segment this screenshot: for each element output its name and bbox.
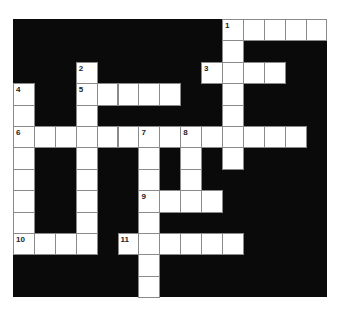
letter-input[interactable] [307,20,327,40]
letter-input[interactable] [181,234,201,254]
crossword-cell[interactable] [138,276,160,298]
crossword-cell[interactable] [138,212,160,234]
crossword-cell[interactable]: 4 [13,83,35,105]
letter-input[interactable] [14,170,34,190]
crossword-cell[interactable] [222,233,244,255]
letter-input[interactable] [119,234,139,254]
letter-input[interactable] [139,255,159,275]
crossword-cell[interactable] [138,147,160,169]
letter-input[interactable] [77,213,97,233]
letter-input[interactable] [160,127,180,147]
letter-input[interactable] [77,127,97,147]
letter-input[interactable] [14,213,34,233]
crossword-cell[interactable] [180,190,202,212]
crossword-cell[interactable] [76,212,98,234]
letter-input[interactable] [223,106,243,126]
letter-input[interactable] [160,191,180,211]
letter-input[interactable] [286,20,306,40]
letter-input[interactable] [77,148,97,168]
letter-input[interactable] [14,127,34,147]
letter-input[interactable] [160,234,180,254]
crossword-cell[interactable]: 2 [76,62,98,84]
crossword-cell[interactable] [76,169,98,191]
crossword-cell[interactable] [97,126,119,148]
crossword-cell[interactable] [34,126,56,148]
crossword-cell[interactable] [243,126,265,148]
crossword-cell[interactable] [159,126,181,148]
crossword-cell[interactable] [138,169,160,191]
crossword-cell[interactable]: 3 [201,62,223,84]
crossword-cell[interactable]: 9 [138,190,160,212]
crossword-cell[interactable] [222,147,244,169]
crossword-cell[interactable]: 8 [180,126,202,148]
letter-input[interactable] [202,234,222,254]
crossword-cell[interactable] [55,233,77,255]
crossword-cell[interactable] [180,233,202,255]
crossword-cell[interactable] [55,126,77,148]
crossword-cell[interactable] [13,169,35,191]
crossword-cell[interactable]: 1 [222,19,244,41]
crossword-cell[interactable] [285,126,307,148]
letter-input[interactable] [202,63,222,83]
crossword-cell[interactable] [118,83,140,105]
crossword-cell[interactable]: 10 [13,233,35,255]
crossword-cell[interactable] [76,105,98,127]
letter-input[interactable] [77,234,97,254]
letter-input[interactable] [160,84,180,104]
letter-input[interactable] [139,191,159,211]
letter-input[interactable] [223,148,243,168]
letter-input[interactable] [139,170,159,190]
letter-input[interactable] [202,127,222,147]
crossword-cell[interactable] [97,83,119,105]
crossword-cell[interactable] [159,190,181,212]
crossword-cell[interactable] [243,62,265,84]
letter-input[interactable] [119,84,139,104]
crossword-cell[interactable] [76,126,98,148]
letter-input[interactable] [181,148,201,168]
letter-input[interactable] [265,20,285,40]
letter-input[interactable] [139,277,159,297]
crossword-cell[interactable] [13,190,35,212]
crossword-cell[interactable] [222,126,244,148]
crossword-cell[interactable] [222,83,244,105]
crossword-cell[interactable] [138,83,160,105]
crossword-cell[interactable] [222,40,244,62]
letter-input[interactable] [244,63,264,83]
crossword-cell[interactable] [306,19,328,41]
crossword-cell[interactable] [201,233,223,255]
letter-input[interactable] [223,84,243,104]
crossword-cell[interactable] [76,233,98,255]
crossword-cell[interactable] [264,19,286,41]
crossword-cell[interactable] [264,62,286,84]
crossword-cell[interactable] [222,105,244,127]
crossword-cell[interactable] [201,190,223,212]
letter-input[interactable] [223,234,243,254]
letter-input[interactable] [14,191,34,211]
crossword-cell[interactable] [180,169,202,191]
letter-input[interactable] [181,191,201,211]
letter-input[interactable] [139,213,159,233]
crossword-cell[interactable] [285,19,307,41]
letter-input[interactable] [265,63,285,83]
crossword-cell[interactable] [159,83,181,105]
crossword-cell[interactable]: 6 [13,126,35,148]
crossword-cell[interactable] [243,19,265,41]
letter-input[interactable] [223,41,243,61]
letter-input[interactable] [223,20,243,40]
letter-input[interactable] [35,234,55,254]
letter-input[interactable] [244,127,264,147]
crossword-cell[interactable]: 11 [118,233,140,255]
letter-input[interactable] [244,20,264,40]
letter-input[interactable] [35,127,55,147]
crossword-cell[interactable] [76,147,98,169]
letter-input[interactable] [98,84,118,104]
letter-input[interactable] [77,84,97,104]
crossword-cell[interactable] [118,126,140,148]
letter-input[interactable] [14,84,34,104]
letter-input[interactable] [139,84,159,104]
letter-input[interactable] [181,170,201,190]
crossword-cell[interactable] [138,254,160,276]
letter-input[interactable] [139,127,159,147]
letter-input[interactable] [77,63,97,83]
crossword-cell[interactable] [180,147,202,169]
